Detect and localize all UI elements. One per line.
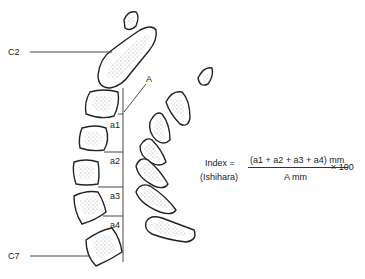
label-a1: a1 xyxy=(110,120,120,130)
cervical-spine-diagram xyxy=(0,0,365,279)
label-a: A xyxy=(146,74,152,84)
label-a2: a2 xyxy=(110,156,120,166)
formula-multiplier: × 100 xyxy=(331,162,354,172)
formula-name: Index = xyxy=(205,158,235,168)
label-c7: C7 xyxy=(8,251,20,261)
label-a4: a4 xyxy=(110,220,120,230)
formula-source: (Ishihara) xyxy=(200,172,238,182)
label-c2: C2 xyxy=(8,47,20,57)
formula-denominator: A mm xyxy=(284,172,307,182)
leader-line-a xyxy=(124,84,146,112)
label-a3: a3 xyxy=(110,191,120,201)
